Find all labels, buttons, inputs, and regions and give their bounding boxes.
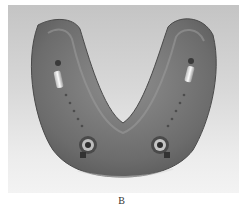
denture-body: [31, 19, 216, 177]
figure-photo: [8, 5, 239, 193]
denture-illustration: [8, 5, 239, 193]
figure-caption: B: [0, 194, 243, 208]
